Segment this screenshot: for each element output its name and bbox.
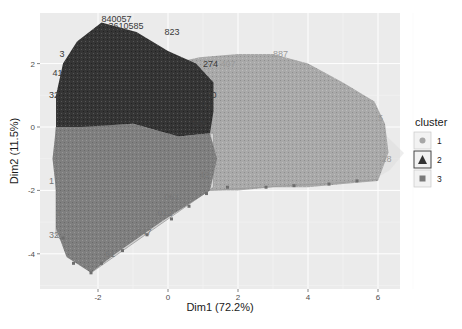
- svg-text:32: 32: [49, 90, 59, 100]
- x-axis-title: Dim1 (72.2%): [186, 301, 253, 313]
- svg-text:6: 6: [376, 293, 381, 302]
- svg-text:0: 0: [166, 293, 171, 302]
- svg-text:5: 5: [378, 113, 383, 123]
- svg-text:70: 70: [207, 90, 217, 100]
- legend: cluster 1 2 3: [414, 116, 448, 187]
- y-axis-title: Dim2 (11.5%): [8, 118, 20, 184]
- svg-text:3: 3: [56, 208, 61, 218]
- y-axis-ticks: 20-2-4: [28, 60, 40, 259]
- svg-text:28: 28: [382, 154, 392, 164]
- svg-text:407: 407: [221, 59, 236, 69]
- svg-text:012: 012: [158, 208, 173, 218]
- svg-text:-2: -2: [94, 293, 102, 302]
- svg-text:3: 3: [60, 49, 65, 59]
- legend-label: 1: [437, 136, 442, 146]
- svg-text:061: 061: [165, 192, 180, 202]
- cluster-plot: 8400573610585823341322747062555887407528…: [0, 0, 462, 329]
- svg-text:61: 61: [105, 249, 115, 259]
- legend-entry-3: 3: [414, 170, 442, 187]
- svg-text:-4: -4: [28, 250, 36, 259]
- svg-text:42: 42: [200, 170, 210, 180]
- square-icon: [420, 176, 426, 182]
- svg-text:274: 274: [203, 59, 218, 69]
- svg-text:647: 647: [137, 227, 152, 237]
- svg-text:887: 887: [273, 49, 288, 59]
- legend-entry-1: 1: [414, 132, 442, 149]
- svg-text:32: 32: [49, 230, 59, 240]
- svg-text:0: 0: [31, 123, 36, 132]
- svg-text:41: 41: [53, 68, 63, 78]
- svg-text:3610585: 3610585: [109, 21, 144, 31]
- legend-label: 3: [437, 174, 442, 184]
- legend-label: 2: [437, 155, 442, 165]
- svg-text:1: 1: [49, 176, 54, 186]
- legend-entry-2: 2: [414, 151, 442, 168]
- svg-text:4: 4: [306, 293, 311, 302]
- svg-text:823: 823: [165, 27, 180, 37]
- legend-title: cluster: [415, 116, 448, 128]
- svg-text:2: 2: [31, 60, 36, 69]
- svg-text:62: 62: [203, 100, 213, 110]
- svg-text:-2: -2: [28, 186, 36, 195]
- circle-icon: [420, 138, 426, 144]
- svg-text:555: 555: [193, 119, 208, 129]
